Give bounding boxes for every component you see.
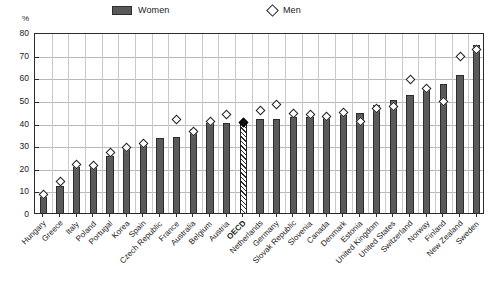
y-axis-unit-label: %	[22, 14, 29, 23]
bar-women	[190, 129, 198, 214]
gridline-vertical	[368, 34, 369, 213]
x-axis-tick-mark	[392, 214, 393, 217]
gridline-vertical	[335, 34, 336, 213]
gridline-vertical	[202, 34, 203, 213]
gridline-vertical	[418, 34, 419, 213]
bar-women	[290, 117, 298, 214]
x-axis-tick-mark	[159, 214, 160, 217]
x-axis-tick-mark	[376, 214, 377, 217]
y-axis-tick-label: 10	[20, 186, 29, 196]
x-axis-tick-mark	[442, 214, 443, 217]
gridline-vertical	[402, 34, 403, 213]
gridline-vertical	[185, 34, 186, 213]
x-axis-tick-mark	[276, 214, 277, 217]
x-axis-tick-mark	[192, 214, 193, 217]
x-axis-tick-mark	[426, 214, 427, 217]
gridline-vertical	[218, 34, 219, 213]
x-axis-tick-mark	[476, 214, 477, 217]
bar-women	[140, 145, 148, 214]
x-axis-tick-mark	[126, 214, 127, 217]
bar-women	[206, 123, 214, 214]
bar-women	[240, 122, 248, 214]
gridline-vertical	[68, 34, 69, 213]
gridline-vertical	[235, 34, 236, 213]
x-axis-tick-label: Korea	[110, 219, 131, 240]
y-axis-tick-mark	[35, 170, 39, 171]
y-axis-tick-mark	[35, 125, 39, 126]
gridline-vertical	[435, 34, 436, 213]
x-axis-tick-mark	[42, 214, 43, 217]
x-axis-tick-mark	[242, 214, 243, 217]
y-axis-tick-label: 20	[20, 164, 29, 174]
chart-container: Women Men % 01020304050607080 HungaryGre…	[0, 0, 488, 284]
y-axis-tick-label: 80	[20, 28, 29, 38]
bar-women	[473, 45, 481, 214]
gridline-vertical	[52, 34, 53, 213]
legend-label-men: Men	[283, 5, 301, 15]
y-axis-tick-mark	[35, 79, 39, 80]
x-axis-tick-mark	[259, 214, 260, 217]
gridline-vertical	[85, 34, 86, 213]
x-axis-tick-mark	[176, 214, 177, 217]
x-axis-tick-mark	[359, 214, 360, 217]
marker-men	[222, 109, 232, 119]
y-axis-tick-mark	[35, 147, 39, 148]
gridline-vertical	[118, 34, 119, 213]
y-axis-tick-label: 30	[20, 141, 29, 151]
bar-women	[356, 113, 364, 214]
marker-men	[405, 74, 415, 84]
y-axis-tick-label: 0	[24, 209, 29, 219]
gridline-vertical	[152, 34, 153, 213]
x-axis-tick-mark	[326, 214, 327, 217]
x-axis-tick-mark	[76, 214, 77, 217]
bar-women	[90, 166, 98, 214]
y-axis-tick-mark	[35, 57, 39, 58]
x-axis-tick-mark	[92, 214, 93, 217]
x-axis-tick-mark	[409, 214, 410, 217]
open-diamond-swatch-icon	[266, 4, 279, 17]
gridline-vertical	[102, 34, 103, 213]
y-axis-tick-label: 70	[20, 51, 29, 61]
x-axis-tick-mark	[209, 214, 210, 217]
y-axis-tick-mark	[35, 192, 39, 193]
bar-women	[256, 119, 264, 214]
y-axis-tick-label: 40	[20, 119, 29, 129]
gridline-vertical	[318, 34, 319, 213]
marker-men	[455, 52, 465, 62]
marker-men	[255, 106, 265, 116]
x-axis-tick-mark	[59, 214, 60, 217]
gridline-vertical	[385, 34, 386, 213]
marker-men	[55, 176, 65, 186]
x-axis-tick-mark	[142, 214, 143, 217]
x-axis-tick-mark	[342, 214, 343, 217]
bar-women	[406, 95, 414, 214]
bar-women	[456, 75, 464, 214]
legend-label-women: Women	[138, 5, 169, 15]
gridline-vertical	[168, 34, 169, 213]
bar-women	[373, 105, 381, 214]
bar-women	[173, 137, 181, 214]
y-axis-tick-label: 60	[20, 73, 29, 83]
legend-item-men: Men	[268, 5, 301, 15]
gridline-vertical	[285, 34, 286, 213]
x-axis-tick-labels: HungaryGreeceItalyPolandPortugalKoreaSpa…	[34, 214, 484, 284]
legend-item-women: Women	[112, 5, 169, 15]
gridline-vertical	[452, 34, 453, 213]
gridline-vertical	[302, 34, 303, 213]
y-axis-tick-label: 50	[20, 96, 29, 106]
x-axis-tick-mark	[292, 214, 293, 217]
gridline-vertical	[468, 34, 469, 213]
bar-women	[123, 148, 131, 214]
plot-area	[34, 33, 484, 214]
gridline-vertical	[352, 34, 353, 213]
bar-women	[323, 117, 331, 214]
bar-women	[340, 115, 348, 214]
bar-women	[306, 117, 314, 214]
gridline-vertical	[268, 34, 269, 213]
y-axis-tick-mark	[35, 102, 39, 103]
y-axis-tick-labels: 01020304050607080	[0, 33, 34, 214]
chart-legend: Women Men	[0, 4, 488, 22]
bar-women	[156, 138, 164, 214]
x-axis-tick-mark	[109, 214, 110, 217]
bar-women	[390, 100, 398, 214]
